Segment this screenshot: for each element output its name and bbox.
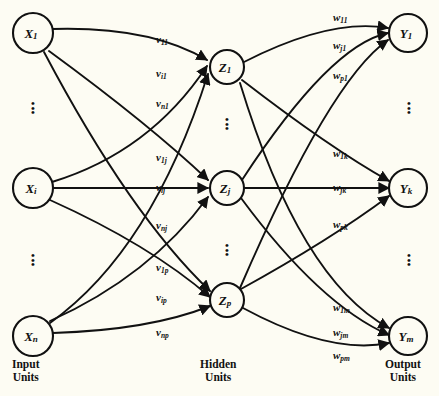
edge-xi-z1 [52, 66, 207, 182]
hidden-caption-line2: Units [200, 371, 236, 384]
weight-label-wp1: wp1 [333, 70, 348, 81]
edge-x1-z1 [52, 29, 207, 60]
edge-zj-y1 [242, 33, 388, 180]
edge-xn-zj [50, 197, 208, 321]
hidden-caption-line1: Hidden [200, 358, 236, 371]
weight-label-vnj: vnj [156, 220, 167, 231]
weight-label-vi1: vi1 [156, 68, 167, 79]
output-layer-caption: Output Units [385, 358, 421, 384]
edge-z1-yk [242, 80, 389, 181]
weight-label-wpk: wpk [333, 219, 348, 230]
weight-label-vij: vij [156, 182, 165, 193]
edge-z1-y1 [244, 26, 388, 62]
weight-label-vip: vip [156, 292, 167, 303]
input-ellipsis-bottom: ••• [28, 253, 38, 267]
weight-label-w1k: w1k [333, 148, 348, 159]
weight-label-wjk: wjk [333, 182, 346, 193]
weight-label-wj1: wj1 [333, 40, 346, 51]
output-ellipsis-top: ••• [404, 101, 414, 115]
output-caption-line2: Units [385, 371, 421, 384]
weight-label-vn1: vn1 [156, 98, 169, 109]
weight-label-wpm: wpm [333, 350, 350, 361]
weight-label-w1m: w1m [333, 302, 350, 313]
weight-label-v1j: v1j [156, 152, 167, 163]
input-layer-caption: Input Units [12, 358, 40, 384]
edge-x1-zj [49, 51, 208, 180]
weight-label-v1p: v1p [156, 262, 168, 273]
weight-label-wjm: wjm [333, 327, 348, 338]
edges-hidden-to-output [240, 26, 389, 345]
neural-network-diagram: X1 Xi Xn Z1 Zj Zp Y1 Yk [0, 0, 439, 396]
network-graph: X1 Xi Xn Z1 Zj Zp Y1 Yk [0, 0, 439, 396]
input-caption-line1: Input [12, 358, 40, 371]
edge-zp-y1 [240, 40, 388, 288]
output-caption-line1: Output [385, 358, 421, 371]
hidden-ellipsis-bottom: ••• [222, 243, 232, 257]
hidden-layer-caption: Hidden Units [200, 358, 236, 384]
edge-xn-zp [53, 306, 210, 333]
input-caption-line2: Units [12, 371, 40, 384]
edge-zp-yk [241, 196, 389, 289]
edges-input-to-hidden [44, 29, 210, 333]
weight-label-w11: w11 [333, 12, 347, 23]
weight-label-vnp: vnp [156, 327, 169, 338]
edge-z1-ym [240, 83, 389, 328]
input-ellipsis-top: ••• [28, 101, 38, 115]
edge-xi-zp [50, 200, 210, 297]
hidden-ellipsis-top: ••• [222, 117, 232, 131]
edge-x1-zp [44, 52, 210, 291]
nodes-output [389, 14, 427, 355]
weight-label-v11: v11 [156, 34, 168, 45]
output-ellipsis-bottom: ••• [404, 253, 414, 267]
